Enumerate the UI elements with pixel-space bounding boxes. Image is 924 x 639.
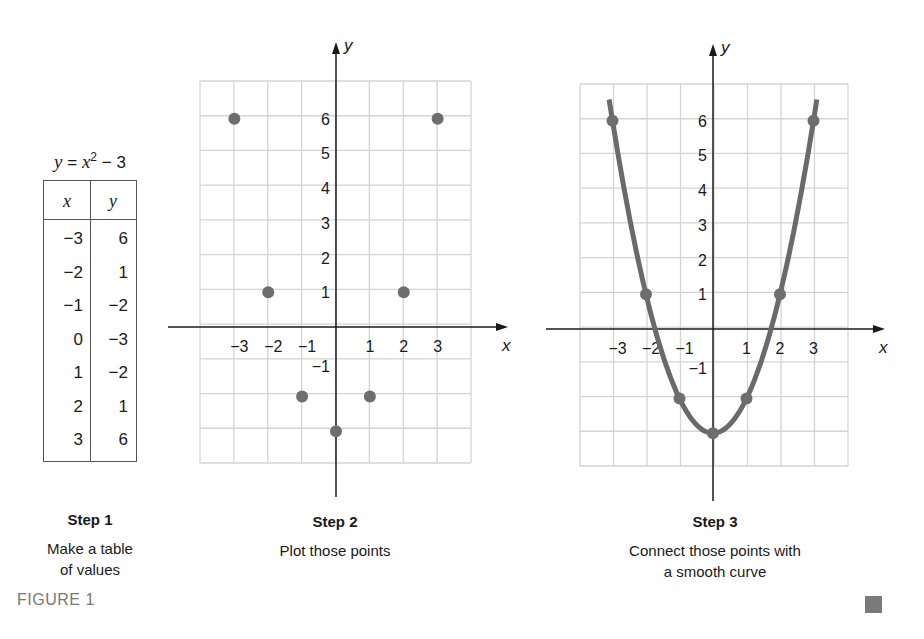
x-axis-label: x (501, 336, 511, 355)
step2-desc: Plot those points (235, 540, 435, 561)
data-point (674, 392, 686, 404)
y-axis-arrow-icon (709, 44, 717, 56)
x-tick-label: −1 (675, 340, 693, 357)
data-point (398, 286, 410, 298)
x-axis-arrow-icon (496, 323, 508, 331)
y-tick-label: 1 (698, 286, 707, 303)
data-point (296, 390, 308, 402)
x-tick-label: 3 (809, 340, 818, 357)
data-point (432, 113, 444, 125)
y-axis-arrow-icon (332, 42, 340, 54)
step2-title: Step 2 (235, 513, 435, 530)
y-tick-label: 1 (321, 284, 330, 301)
step3-desc: Connect those points witha smooth curve (585, 540, 845, 582)
x-axis-arrow-icon (873, 325, 885, 333)
y-tick-label: 3 (698, 217, 707, 234)
x-tick-label: −3 (608, 340, 626, 357)
x-tick-label: 2 (399, 338, 408, 355)
x-tick-label: 1 (365, 338, 374, 355)
y-tick-label: 4 (321, 180, 330, 197)
step1-title: Step 1 (20, 511, 160, 528)
step2-caption: Step 2 Plot those points (235, 513, 435, 561)
y-tick-label: 5 (698, 147, 707, 164)
data-point (707, 427, 719, 439)
y-tick-label: 6 (321, 111, 330, 128)
data-point (741, 392, 753, 404)
y-tick-label: 2 (321, 250, 330, 267)
y-tick-label: 6 (698, 113, 707, 130)
x-tick-label: 1 (742, 340, 751, 357)
step2-scatter-chart: xy−3−2−1123654321−1 (168, 36, 511, 497)
data-point (808, 115, 820, 127)
data-point (330, 425, 342, 437)
data-point (640, 288, 652, 300)
y-tick-label: −1 (312, 358, 330, 375)
y-axis-label: y (720, 38, 731, 57)
step3-curve-chart: xy−3−2−1123654321−1 (546, 38, 888, 501)
data-point (228, 113, 240, 125)
end-mark-square (865, 596, 882, 613)
y-tick-label: 4 (698, 182, 707, 199)
y-tick-label: −1 (689, 360, 707, 377)
x-tick-label: −1 (298, 338, 316, 355)
x-tick-label: −3 (230, 338, 248, 355)
x-tick-label: 2 (776, 340, 785, 357)
x-tick-label: −2 (264, 338, 282, 355)
y-tick-label: 2 (698, 252, 707, 269)
step1-caption: Step 1 Make a tableof values (20, 511, 160, 580)
data-point (262, 286, 274, 298)
data-point (364, 390, 376, 402)
y-tick-label: 3 (321, 215, 330, 232)
step3-title: Step 3 (585, 513, 845, 530)
data-point (774, 288, 786, 300)
data-point (607, 115, 619, 127)
x-tick-label: 3 (433, 338, 442, 355)
figure-label: FIGURE 1 (17, 591, 95, 609)
x-axis-label: x (878, 338, 888, 357)
step3-caption: Step 3 Connect those points witha smooth… (585, 513, 845, 582)
y-tick-label: 5 (321, 145, 330, 162)
y-axis-label: y (343, 36, 354, 55)
step1-desc: Make a tableof values (20, 538, 160, 580)
